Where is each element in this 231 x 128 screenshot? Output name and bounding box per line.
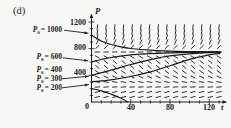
ic-subscript: 0 xyxy=(41,87,44,92)
ic-subscript: 0 xyxy=(41,57,44,62)
figure-label: (d) xyxy=(13,6,25,17)
ic-label-600: P0= 600 xyxy=(14,53,62,62)
ic-value: = 400 xyxy=(45,65,62,74)
ic-value: = 1000 xyxy=(41,25,62,34)
x-tick-40: 40 xyxy=(123,104,139,112)
ic-value: = 600 xyxy=(45,52,62,61)
x-axis-title: t xyxy=(221,103,223,112)
origin-tick: 0 xyxy=(81,103,89,111)
y-tick-800: 800 xyxy=(64,44,86,52)
x-tick-80: 80 xyxy=(162,104,178,112)
y-axis-title: P xyxy=(95,7,105,16)
y-tick-1200: 1200 xyxy=(64,19,86,27)
slope-field-figure: (d) P t 1200 800 400 0 40 80 120 P0= 100… xyxy=(0,0,231,128)
ic-subscript: 0 xyxy=(41,78,44,83)
ic-label-200: P0= 200 xyxy=(14,84,62,93)
x-tick-120: 120 xyxy=(201,104,217,112)
plot-canvas xyxy=(0,0,231,128)
ic-subscript: 0 xyxy=(37,29,40,34)
ic-value: = 200 xyxy=(45,83,62,92)
solution-curve xyxy=(92,89,128,102)
y-tick-400: 400 xyxy=(64,69,86,77)
ic-value: = 300 xyxy=(45,74,62,83)
ic-label-1000: P0= 1000 xyxy=(14,26,62,35)
